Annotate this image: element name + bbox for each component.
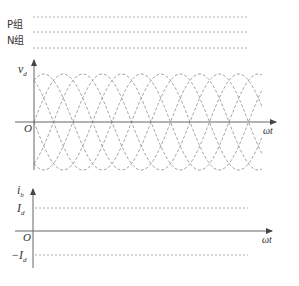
- phase-current-plot: ib Id O −Id ωt: [11, 183, 272, 268]
- id-pos-label: Id: [16, 201, 25, 217]
- rectifier-waveform-diagram: P组 N组 vd O ωt ib Id O −Id ωt: [0, 0, 299, 286]
- ib-origin-label: O: [23, 231, 31, 243]
- p-group-label: P组: [7, 18, 23, 30]
- ib-omega-t-label: ωt: [262, 234, 272, 245]
- output-voltage-plot: vd O ωt: [15, 60, 276, 170]
- vd-axis-label: vd: [18, 62, 27, 78]
- vd-origin-label: O: [24, 122, 32, 134]
- group-legend-section: P组 N组: [7, 17, 248, 48]
- group-dashed-lines: [33, 17, 248, 48]
- id-neg-label: −Id: [11, 248, 27, 264]
- ib-axis-label: ib: [17, 183, 24, 199]
- n-group-label: N组: [7, 34, 24, 46]
- vd-omega-t-label: ωt: [263, 125, 273, 136]
